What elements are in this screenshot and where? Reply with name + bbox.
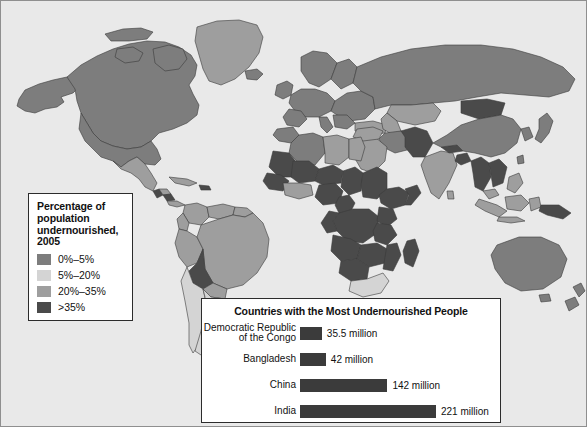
bar-value-drc: 35.5 million (327, 328, 378, 339)
chart-rows: Democratic Republic of the Congo 35.5 mi… (202, 322, 500, 422)
legend-title: Percentage of population undernourished,… (37, 201, 126, 248)
legend-item-0-5: 0%–5% (37, 253, 126, 265)
table-row: India 221 million (202, 400, 500, 422)
legend-title-line-2: population (37, 213, 126, 225)
bar-wrap-china: 142 million (300, 379, 500, 392)
legend-item-20-35: 20%–35% (37, 285, 126, 297)
legend-label-over-35: >35% (58, 301, 85, 313)
country-sri-lanka (447, 191, 454, 199)
bar-label-bangladesh: Bangladesh (202, 354, 300, 365)
chart-title: Countries with the Most Undernourished P… (202, 305, 500, 317)
bar-wrap-drc: 35.5 million (300, 327, 500, 340)
country-libya (323, 135, 349, 165)
map-legend: Percentage of population undernourished,… (28, 193, 133, 321)
legend-item-5-20: 5%–20% (37, 269, 126, 281)
legend-swatch-5-20 (37, 270, 51, 281)
bar-label-india: India (202, 406, 300, 417)
legend-label-20-35: 20%–35% (58, 285, 106, 297)
legend-item-over-35: >35% (37, 301, 126, 313)
bar-drc (300, 327, 322, 340)
bar-label-drc-line-1: Democratic Republic (204, 322, 296, 333)
bar-value-china: 142 million (392, 380, 440, 391)
bar-india (300, 405, 436, 418)
table-row: China 142 million (202, 374, 500, 396)
undernourished-bar-chart-panel: Countries with the Most Undernourished P… (201, 298, 501, 423)
bar-wrap-india: 221 million (300, 405, 500, 418)
legend-label-5-20: 5%–20% (58, 269, 100, 281)
legend-swatch-0-5 (37, 254, 51, 265)
legend-title-line-4: 2005 (37, 236, 126, 248)
legend-swatch-over-35 (37, 302, 51, 313)
bar-label-china: China (202, 380, 300, 391)
table-row: Bangladesh 42 million (202, 348, 500, 370)
bar-bangladesh (300, 353, 326, 366)
table-row: Democratic Republic of the Congo 35.5 mi… (202, 322, 500, 344)
legend-label-0-5: 0%–5% (58, 253, 94, 265)
world-map-figure: Percentage of population undernourished,… (0, 0, 587, 427)
legend-swatch-20-35 (37, 286, 51, 297)
bar-value-india: 221 million (441, 406, 489, 417)
bar-value-bangladesh: 42 million (331, 354, 373, 365)
bar-china (300, 379, 387, 392)
bar-label-drc-line-2: of the Congo (202, 333, 296, 344)
bar-label-drc: Democratic Republic of the Congo (202, 323, 300, 344)
country-tasmania (539, 294, 551, 302)
bar-wrap-bangladesh: 42 million (300, 353, 500, 366)
country-taiwan (517, 155, 524, 164)
